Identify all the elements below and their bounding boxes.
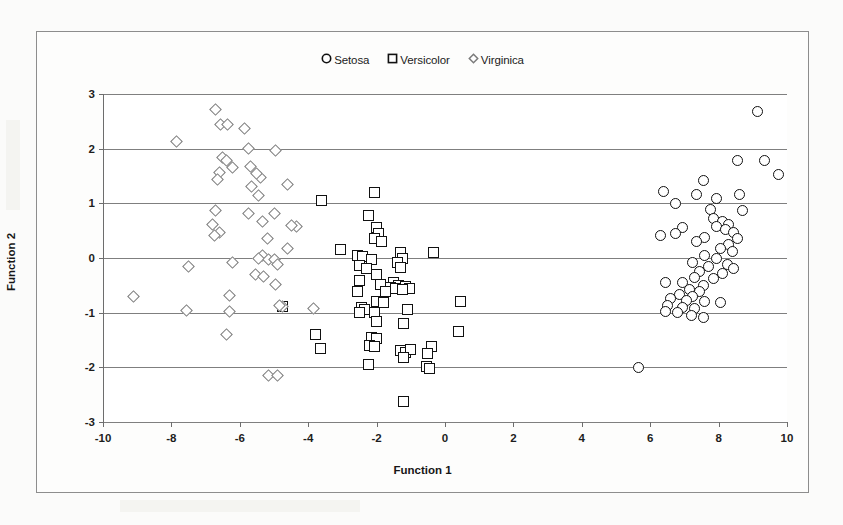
y-axis-tick-label: 0 bbox=[89, 252, 95, 264]
legend-item-setosa[interactable]: Setosa bbox=[321, 53, 369, 66]
data-point-virginica bbox=[220, 328, 233, 341]
data-point-versicolor bbox=[428, 247, 439, 258]
x-axis-tick bbox=[445, 422, 446, 427]
gridline bbox=[103, 367, 787, 368]
legend-item-virginica[interactable]: Virginica bbox=[468, 53, 524, 66]
data-point-setosa bbox=[670, 228, 681, 239]
y-axis-title: Function 2 bbox=[5, 233, 17, 291]
scan-artifact bbox=[6, 120, 20, 210]
data-point-setosa bbox=[699, 250, 710, 261]
data-point-setosa bbox=[734, 189, 745, 200]
data-point-versicolor bbox=[315, 343, 326, 354]
diamond-marker-icon bbox=[468, 53, 479, 66]
data-point-setosa bbox=[698, 175, 709, 186]
data-point-virginica bbox=[256, 216, 269, 229]
data-point-virginica bbox=[271, 369, 284, 382]
legend-item-label: Setosa bbox=[334, 54, 369, 66]
data-point-setosa bbox=[752, 106, 763, 117]
data-point-virginica bbox=[209, 205, 222, 218]
legend-item-label: Virginica bbox=[481, 54, 524, 66]
data-point-setosa bbox=[732, 155, 743, 166]
y-axis-tick-label: 1 bbox=[89, 197, 95, 209]
data-point-versicolor bbox=[398, 352, 409, 363]
x-axis-tick bbox=[787, 422, 788, 427]
x-axis-tick-label: 6 bbox=[647, 432, 653, 444]
x-axis-tick-label: 2 bbox=[510, 432, 516, 444]
y-axis-tick bbox=[99, 149, 104, 150]
y-axis-tick-label: -2 bbox=[85, 361, 95, 373]
data-point-setosa bbox=[737, 205, 748, 216]
data-point-virginica bbox=[223, 305, 236, 318]
x-axis-tick-label: -2 bbox=[371, 432, 381, 444]
x-axis-tick-label: -10 bbox=[95, 432, 112, 444]
data-point-setosa bbox=[715, 297, 726, 308]
legend-item-versicolor[interactable]: Versicolor bbox=[387, 53, 450, 66]
data-point-versicolor bbox=[369, 187, 380, 198]
data-point-setosa bbox=[728, 263, 739, 274]
x-axis-tick bbox=[103, 422, 104, 427]
x-axis-tick bbox=[582, 422, 583, 427]
y-axis-tick bbox=[99, 203, 104, 204]
x-axis-tick bbox=[171, 422, 172, 427]
y-axis-tick bbox=[99, 258, 104, 259]
data-point-setosa bbox=[727, 246, 738, 257]
square-marker-icon bbox=[387, 53, 398, 66]
data-point-versicolor bbox=[398, 318, 409, 329]
data-point-virginica bbox=[281, 178, 294, 191]
data-point-virginica bbox=[269, 278, 282, 291]
data-point-versicolor bbox=[371, 316, 382, 327]
data-point-virginica bbox=[209, 103, 222, 116]
x-axis-tick bbox=[377, 422, 378, 427]
data-point-setosa bbox=[711, 253, 722, 264]
x-axis-tick bbox=[719, 422, 720, 427]
data-point-setosa bbox=[759, 155, 770, 166]
y-axis-tick-label: 2 bbox=[89, 143, 95, 155]
data-point-versicolor bbox=[453, 326, 464, 337]
data-point-virginica bbox=[281, 242, 294, 255]
gridline bbox=[103, 203, 787, 204]
chart-frame: SetosaVersicolorVirginica 3210-1-2-3-10-… bbox=[36, 31, 809, 493]
x-axis-tick bbox=[240, 422, 241, 427]
data-point-versicolor bbox=[395, 262, 406, 273]
gridline bbox=[103, 94, 787, 95]
data-point-virginica bbox=[223, 289, 236, 302]
data-point-versicolor bbox=[363, 359, 374, 370]
data-point-versicolor bbox=[376, 236, 387, 247]
data-point-setosa bbox=[691, 189, 702, 200]
data-point-virginica bbox=[261, 232, 274, 245]
data-point-setosa bbox=[672, 307, 683, 318]
gridline bbox=[103, 149, 787, 150]
data-point-virginica bbox=[127, 290, 140, 303]
x-axis-tick-label: 4 bbox=[579, 432, 585, 444]
data-point-virginica bbox=[180, 304, 193, 317]
gridline bbox=[103, 313, 787, 314]
data-point-versicolor bbox=[310, 329, 321, 340]
data-point-versicolor bbox=[316, 195, 327, 206]
x-axis-tick bbox=[308, 422, 309, 427]
data-point-setosa bbox=[658, 186, 669, 197]
data-point-setosa bbox=[670, 198, 681, 209]
y-axis-tick bbox=[99, 367, 104, 368]
data-point-setosa bbox=[691, 236, 702, 247]
x-axis-tick-label: -8 bbox=[166, 432, 176, 444]
circle-marker-icon bbox=[321, 53, 332, 66]
data-point-versicolor bbox=[369, 341, 380, 352]
data-point-virginica bbox=[170, 135, 183, 148]
data-point-virginica bbox=[268, 207, 281, 220]
x-axis-title: Function 1 bbox=[37, 464, 808, 476]
data-point-setosa bbox=[708, 273, 719, 284]
x-axis-tick bbox=[650, 422, 651, 427]
data-point-setosa bbox=[660, 306, 671, 317]
data-point-versicolor bbox=[335, 244, 346, 255]
data-point-setosa bbox=[633, 362, 644, 373]
y-axis-tick-label: -1 bbox=[85, 307, 95, 319]
data-point-versicolor bbox=[354, 275, 365, 286]
data-point-virginica bbox=[242, 142, 255, 155]
data-point-setosa bbox=[698, 312, 709, 323]
data-point-versicolor bbox=[455, 296, 466, 307]
scan-artifact bbox=[120, 500, 360, 512]
data-point-setosa bbox=[773, 169, 784, 180]
data-point-versicolor bbox=[354, 307, 365, 318]
data-point-versicolor bbox=[422, 348, 433, 359]
chart-legend: SetosaVersicolorVirginica bbox=[37, 53, 808, 67]
